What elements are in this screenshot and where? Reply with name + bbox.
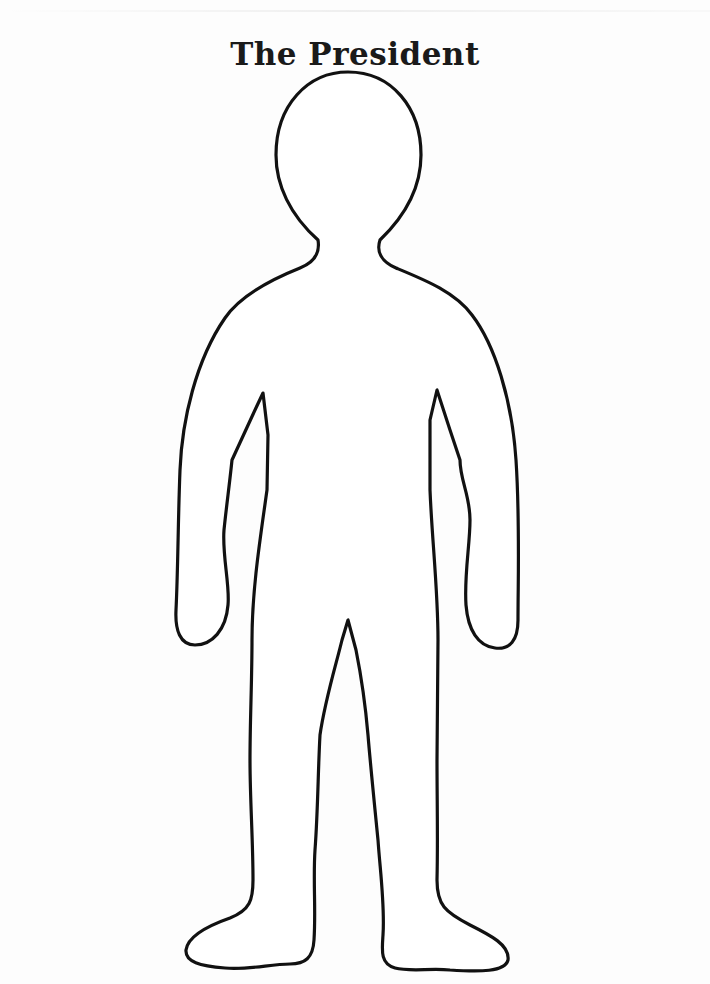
- body-outline-path: [176, 72, 519, 971]
- body-outline-figure: [0, 0, 710, 984]
